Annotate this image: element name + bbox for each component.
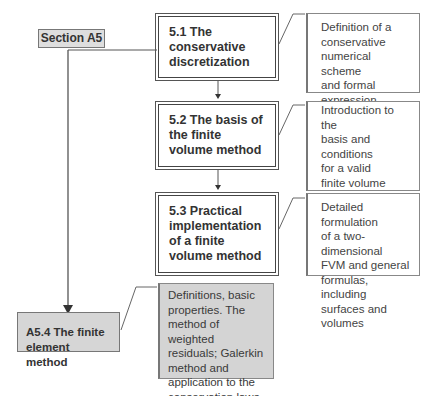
- node-5-1-description: Definition of a conservative numerical s…: [306, 13, 420, 93]
- node-a5-4-description: Definitions, basic properties. The metho…: [158, 283, 274, 379]
- node-title: 5.2 The basis of the finite volume metho…: [169, 113, 265, 158]
- section-label: Section A5: [38, 29, 105, 48]
- node-title: 5.1 The conservative discretization: [169, 25, 265, 70]
- node-5-2: 5.2 The basis of the finite volume metho…: [158, 104, 276, 167]
- node-a5-4: A5.4 The finite element method: [17, 312, 120, 352]
- node-5-2-description: Introduction to the basis and conditions…: [306, 101, 420, 191]
- node-5-1: 5.1 The conservative discretization: [158, 16, 276, 78]
- node-title: 5.3 Practical implementation of a finite…: [169, 204, 265, 264]
- node-5-3-description: Detailed formulation of a two-dimensiona…: [306, 193, 420, 276]
- node-5-3: 5.3 Practical implementation of a finite…: [158, 195, 276, 273]
